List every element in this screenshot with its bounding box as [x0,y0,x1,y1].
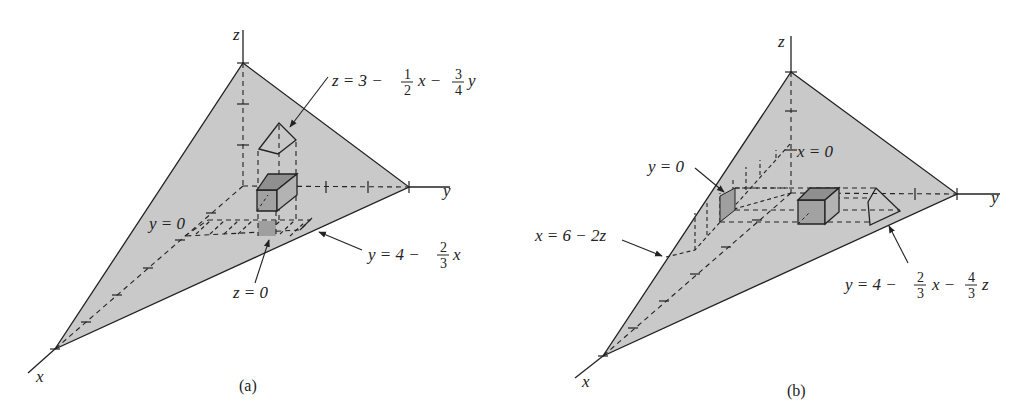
plane-equation-a: z = 3 − 1 2 x − 3 4 y [331,67,476,98]
svg-text:z: z [981,275,989,294]
svg-text:2: 2 [917,270,924,285]
svg-text:3: 3 [968,286,975,301]
svg-text:x −: x − [417,71,441,90]
panel-b: z y x x = 0 y = 0 x = 6 − 2z y = 4 − 2 3… [534,32,1000,400]
plane-triangle-a [55,63,409,349]
label-y0-a: y = 0 [147,214,186,233]
z-axis-label-a: z [232,25,240,44]
figure-canvas: z y x z = 3 − 1 2 x − 3 4 y y = 4 − 2 3 … [0,0,1019,419]
svg-text:4: 4 [968,270,975,285]
base-cell-a [258,221,276,236]
y-axis-label-b: y [989,188,999,207]
svg-text:x: x [452,245,461,264]
arrow-xz-b [622,240,662,256]
svg-text:1: 1 [404,67,411,82]
x-axis-label-b: x [581,372,590,391]
caption-b: (b) [787,382,806,400]
trace-equation-a: y = 4 − 2 3 x [366,240,461,271]
svg-text:y: y [466,71,476,90]
label-y0-b: y = 0 [646,157,685,176]
plane-equation-b: y = 4 − 2 3 x − 4 3 z [843,270,989,301]
label-x0-b: x = 0 [796,142,834,161]
caption-a: (a) [239,377,257,395]
svg-text:3: 3 [917,286,924,301]
svg-text:4: 4 [455,83,462,98]
y-axis-label-a: y [441,181,451,200]
panel-a: z y x z = 3 − 1 2 x − 3 4 y y = 4 − 2 3 … [28,25,476,395]
label-xz-eq-b: x = 6 − 2z [534,226,606,245]
svg-text:2: 2 [440,240,447,255]
svg-text:2: 2 [404,83,411,98]
label-z0-a: z = 0 [232,283,269,302]
svg-text:3: 3 [440,256,447,271]
arrow-plane-b [889,226,908,263]
svg-text:z = 3 −: z = 3 − [331,71,383,90]
plane-triangle-b [603,72,957,356]
arrow-trace-a [319,232,362,250]
svg-text:3: 3 [455,67,462,82]
x-axis-label-a: x [35,367,44,386]
z-axis-label-b: z [777,32,785,51]
svg-text:x −: x − [931,275,955,294]
svg-text:y = 4 −: y = 4 − [366,245,420,264]
svg-text:y = 4 −: y = 4 − [843,275,897,294]
